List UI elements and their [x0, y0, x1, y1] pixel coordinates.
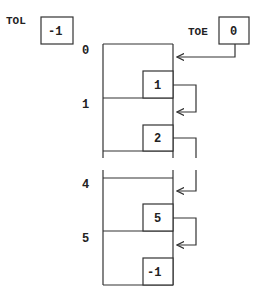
toe-arrow [177, 44, 235, 57]
tol-value: -1 [48, 25, 62, 39]
next-arrow-upper [173, 138, 196, 158]
next-value: -1 [147, 266, 161, 280]
next-value: 5 [154, 212, 161, 226]
slot-index: 0 [82, 44, 89, 58]
toe-label: TOE [188, 26, 208, 38]
slot-index: 1 [82, 98, 89, 112]
next-arrow [173, 218, 196, 245]
next-arrow-lower [177, 170, 196, 191]
toe-pointer: TOE 0 [177, 17, 249, 57]
next-value: 2 [154, 132, 161, 146]
next-value: 1 [154, 79, 161, 93]
slot-0: 0 1 [82, 44, 196, 112]
toe-value: 0 [230, 25, 237, 39]
slot-index: 5 [82, 232, 89, 246]
slot-4: 4 5 [82, 178, 196, 245]
tol-label: TOL [6, 15, 26, 27]
linked-list-diagram: TOL -1 TOE 0 0 1 1 2 [0, 0, 263, 296]
tol-pointer: TOL -1 [6, 15, 73, 44]
slot-5: 5 -1 [82, 232, 173, 285]
slot-index: 4 [82, 178, 89, 192]
next-arrow [173, 85, 196, 112]
